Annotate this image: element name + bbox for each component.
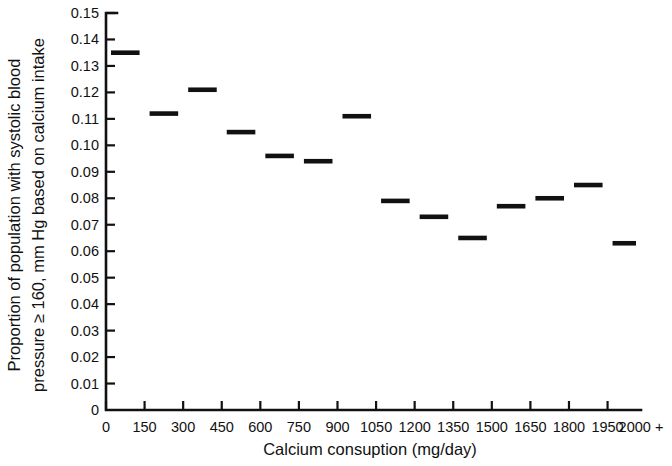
chart-figure: Proportion of population with systolic b… — [0, 0, 672, 466]
x-axis-tick-labels: 0150300450600750900105012001350150016501… — [102, 419, 663, 435]
data-segments-group — [111, 53, 636, 244]
x-axis-tick-label: 1050 — [360, 419, 392, 435]
y-axis-tick-label: 0.11 — [72, 111, 99, 127]
x-axis-tick-label: 150 — [132, 419, 156, 435]
x-axis-tick-label: 300 — [171, 419, 195, 435]
y-axis-title-line2: pressure ≥ 160, mm Hg based on calcium i… — [29, 38, 47, 392]
x-axis-tick-label: 750 — [287, 419, 311, 435]
x-axis-tick-label: 2000 + — [619, 419, 664, 435]
x-axis-tick-marks — [106, 401, 608, 410]
y-axis-tick-label: 0.03 — [71, 323, 99, 339]
x-axis-tick-label: 900 — [325, 419, 349, 435]
y-axis-tick-label: 0.04 — [71, 296, 99, 312]
y-axis-tick-label: 0.02 — [71, 349, 99, 365]
y-axis-origin-label: 0 — [91, 402, 99, 418]
y-axis-tick-label: 0.06 — [71, 243, 99, 259]
x-axis-tick-label: 1500 — [476, 419, 508, 435]
y-axis-tick-label: 0.07 — [71, 217, 99, 233]
y-axis-tick-marks — [106, 13, 115, 384]
y-axis-tick-labels: 0.010.020.030.040.050.060.070.080.090.10… — [71, 5, 99, 418]
x-axis-tick-label: 1800 — [553, 419, 585, 435]
y-axis-tick-label: 0.10 — [71, 137, 99, 153]
y-axis-title-line1: Proportion of population with systolic b… — [5, 59, 23, 372]
axis-frame — [106, 13, 641, 410]
y-axis-tick-label: 0.12 — [71, 84, 99, 100]
calcium-blood-pressure-chart: Proportion of population with systolic b… — [0, 0, 672, 466]
x-axis-tick-label: 0 — [102, 419, 110, 435]
x-axis-title: Calcium consuption (mg/day) — [263, 440, 477, 458]
x-axis-tick-label: 1350 — [437, 419, 469, 435]
y-axis-tick-label: 0.05 — [71, 270, 99, 286]
x-axis-tick-label: 450 — [210, 419, 234, 435]
x-axis-tick-label: 1650 — [514, 419, 546, 435]
y-axis-tick-label: 0.08 — [71, 190, 99, 206]
y-axis-tick-label: 0.01 — [71, 376, 99, 392]
y-axis-tick-label: 0.15 — [71, 5, 99, 21]
y-axis-tick-label: 0.09 — [71, 164, 99, 180]
y-axis-tick-label: 0.14 — [71, 31, 99, 47]
x-axis-tick-label: 1200 — [399, 419, 431, 435]
y-axis-title-group: Proportion of population with systolic b… — [5, 38, 47, 392]
x-axis-tick-label: 600 — [248, 419, 272, 435]
y-axis-tick-label: 0.13 — [71, 58, 99, 74]
